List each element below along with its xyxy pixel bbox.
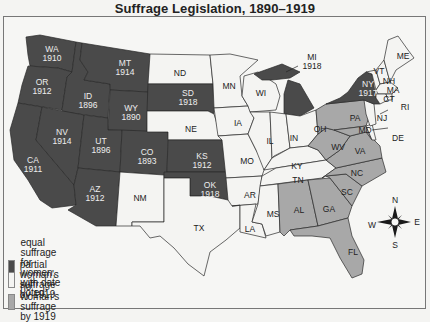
label-NC: NC: [351, 168, 363, 178]
year-MI: 1918: [303, 61, 322, 71]
label-OH: OH: [314, 124, 327, 134]
year-CO: 1893: [138, 156, 157, 166]
label-MN: MN: [222, 81, 235, 91]
label-WI: WI: [256, 88, 266, 98]
label-VT: VT: [374, 66, 385, 76]
year-WY: 1890: [122, 112, 141, 122]
state-shapes: [10, 35, 414, 278]
year-OR: 1912: [33, 86, 52, 96]
label-NM: NM: [133, 193, 146, 203]
year-UT: 1896: [92, 145, 111, 155]
label-GA: GA: [323, 204, 336, 214]
label-IL: IL: [266, 136, 273, 146]
label-LA: LA: [245, 224, 256, 234]
year-SD: 1918: [179, 97, 198, 107]
compass-e-label: E: [414, 217, 420, 227]
label-KY: KY: [291, 161, 303, 171]
year-ID: 1896: [79, 100, 98, 110]
legend-label-none: no woman's suffrage by 1919: [20, 282, 68, 322]
label-FL: FL: [348, 247, 358, 257]
year-NY: 1917: [359, 88, 378, 98]
label-WV: WV: [331, 142, 345, 152]
year-NV: 1914: [53, 136, 72, 146]
label-ME: ME: [397, 51, 410, 61]
label-TX: TX: [194, 223, 205, 233]
label-ND: ND: [174, 68, 186, 78]
year-WA: 1910: [43, 53, 62, 63]
label-PA: PA: [350, 113, 361, 123]
label-CT: CT: [383, 94, 394, 104]
compass-rose: N S E W: [368, 195, 420, 250]
de-leader-line: [372, 128, 388, 130]
compass-n-label: N: [392, 195, 398, 205]
label-IA: IA: [234, 118, 242, 128]
label-VA: VA: [355, 146, 366, 156]
label-NJ: NJ: [377, 113, 387, 123]
label-NE: NE: [185, 124, 197, 134]
label-TN: TN: [292, 175, 303, 185]
state-MI-upper: [254, 64, 300, 80]
year-CA: 1911: [24, 164, 43, 174]
label-MO: MO: [240, 156, 254, 166]
label-RI: RI: [401, 102, 410, 112]
label-MS: MS: [267, 209, 280, 219]
year-MT: 1914: [116, 67, 135, 77]
legend-item-none: no woman's suffrage by 1919: [8, 282, 68, 322]
compass-w-label: W: [368, 220, 376, 230]
label-IN: IN: [290, 133, 299, 143]
legend-swatch-none: [8, 294, 15, 310]
year-AZ: 1912: [86, 193, 105, 203]
compass-s-label: S: [392, 240, 398, 250]
label-SC: SC: [341, 187, 353, 197]
label-DE: DE: [392, 133, 404, 143]
year-KS: 1912: [193, 160, 212, 170]
label-AR: AR: [244, 190, 256, 200]
label-AL: AL: [294, 205, 305, 215]
year-OK: 1918: [201, 189, 220, 199]
state-MI-lower: [284, 80, 314, 116]
label-MD: MD: [358, 125, 371, 135]
